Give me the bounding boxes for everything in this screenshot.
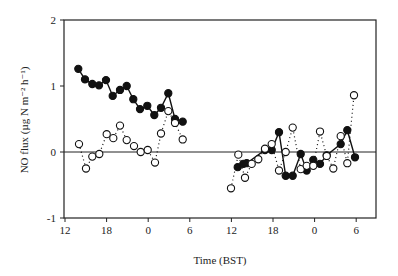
x-tick-label: 0 bbox=[145, 224, 151, 236]
filled-marker bbox=[109, 92, 116, 99]
filled-marker bbox=[75, 65, 82, 72]
open-marker bbox=[103, 131, 110, 138]
open-marker bbox=[110, 135, 117, 142]
open-marker bbox=[316, 128, 323, 135]
open-marker bbox=[248, 160, 255, 167]
x-tick-label: 0 bbox=[312, 224, 318, 236]
open-marker bbox=[227, 185, 234, 192]
y-tick-label: 0 bbox=[51, 146, 57, 158]
open-marker bbox=[323, 152, 330, 159]
filled-marker bbox=[337, 140, 344, 147]
x-tick-label: 12 bbox=[60, 224, 71, 236]
open-marker bbox=[275, 167, 282, 174]
filled-marker bbox=[89, 80, 96, 87]
open-marker bbox=[96, 150, 103, 157]
open-marker bbox=[268, 140, 275, 147]
open-marker bbox=[157, 130, 164, 137]
filled-marker bbox=[151, 111, 158, 118]
chart: 210-1121806121806 Time (BST) NO flux (µg… bbox=[0, 0, 398, 276]
filled-marker bbox=[165, 90, 172, 97]
data-series bbox=[75, 65, 359, 192]
plot-frame bbox=[64, 20, 376, 218]
filled-marker bbox=[157, 104, 164, 111]
filled-marker bbox=[81, 76, 88, 83]
filled-marker bbox=[289, 172, 296, 179]
x-tick-label: 6 bbox=[187, 224, 193, 236]
open-marker bbox=[179, 136, 186, 143]
filled-marker bbox=[144, 102, 151, 109]
open-marker bbox=[330, 165, 337, 172]
filled-marker bbox=[123, 82, 130, 89]
x-tick-label: 18 bbox=[268, 224, 280, 236]
open-marker bbox=[75, 140, 82, 147]
y-tick-label: 1 bbox=[51, 80, 57, 92]
open-marker bbox=[344, 160, 351, 167]
filled-marker bbox=[116, 86, 123, 93]
open-marker bbox=[235, 151, 242, 158]
y-axis-label: NO flux (µg N m⁻² h⁻¹) bbox=[18, 66, 31, 173]
open-marker bbox=[89, 153, 96, 160]
open-marker bbox=[151, 159, 158, 166]
filled-marker bbox=[130, 96, 137, 103]
filled-marker bbox=[316, 160, 323, 167]
open-marker bbox=[130, 142, 137, 149]
open-marker bbox=[289, 124, 296, 131]
open-marker bbox=[144, 146, 151, 153]
y-tick-label: 2 bbox=[51, 14, 57, 26]
filled-marker bbox=[179, 118, 186, 125]
open-marker bbox=[116, 122, 123, 129]
axes: 210-1121806121806 bbox=[47, 14, 360, 236]
open-marker bbox=[282, 148, 289, 155]
filled-marker bbox=[95, 82, 102, 89]
open-marker bbox=[261, 145, 268, 152]
filled-marker bbox=[351, 154, 358, 161]
filled-marker bbox=[282, 172, 289, 179]
open-marker bbox=[241, 174, 248, 181]
open-marker bbox=[337, 133, 344, 140]
open-marker bbox=[255, 156, 262, 163]
open-marker bbox=[165, 107, 172, 114]
x-tick-label: 12 bbox=[226, 224, 237, 236]
x-axis-label: Time (BST) bbox=[193, 254, 246, 267]
open-marker bbox=[82, 165, 89, 172]
filled-marker bbox=[102, 76, 109, 83]
filled-marker bbox=[275, 129, 282, 136]
open-marker bbox=[137, 148, 144, 155]
plot-border bbox=[64, 20, 376, 218]
open-marker bbox=[310, 162, 317, 169]
x-tick-label: 18 bbox=[101, 224, 113, 236]
x-tick-label: 6 bbox=[353, 224, 359, 236]
filled-marker bbox=[136, 106, 143, 113]
open-marker bbox=[350, 92, 357, 99]
y-tick-label: -1 bbox=[47, 212, 56, 224]
open-marker bbox=[123, 137, 130, 144]
open-marker bbox=[171, 119, 178, 126]
